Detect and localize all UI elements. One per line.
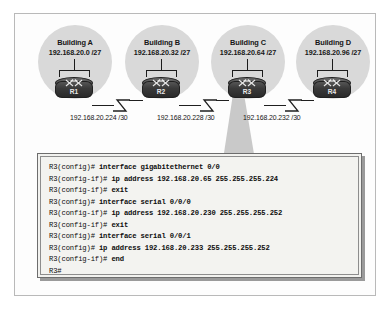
router-r2[interactable]: R2 [142, 77, 180, 98]
console-line: R3(config-if)# exit [49, 186, 128, 194]
console-line: R3(config-if)# ip address 192.168.20.230… [49, 209, 282, 217]
router-r4-label: R4 [313, 88, 351, 95]
console-line: R3(config)# interface gigabitethernet 0/… [49, 163, 220, 171]
console-line: R3(config-if)# ip address 192.168.20.65 … [49, 175, 278, 183]
lan-stub-leg-c-right [262, 70, 263, 77]
console-line: R3(config)# ip address 192.168.20.233 25… [49, 244, 270, 252]
console-command: interface gigabitethernet 0/0 [95, 163, 220, 171]
lan-stub-vertical-d [332, 59, 333, 70]
console-prompt: R3(config)# [49, 232, 95, 240]
router-arrows-icon [237, 78, 257, 88]
console-line: R3(config-if)# exit [49, 221, 128, 229]
console-prompt: R3(config-if)# [49, 175, 107, 183]
serial-zigzag-r2-r3 [200, 99, 218, 112]
console-command: end [107, 255, 124, 263]
console-prompt: R3(config)# [49, 163, 95, 171]
router-r2-label: R2 [142, 88, 180, 95]
router-arrows-icon [151, 78, 171, 88]
serial-link-r3-r4-left [264, 105, 286, 106]
console-command: ip address 192.168.20.65 255.255.255.224 [107, 175, 278, 183]
diagram-frame: Building A 192.168.20.0 /27 Building B 1… [14, 13, 376, 296]
console-line: R3(config)# interface serial 0/0/1 [49, 232, 191, 240]
console-command: interface serial 0/0/1 [95, 232, 191, 240]
lan-stub-bar-b [146, 70, 177, 71]
building-d-name: Building D [281, 38, 385, 48]
lan-stub-bar-a [59, 70, 90, 71]
router-arrows-icon [322, 78, 342, 88]
lan-stub-vertical-b [161, 59, 162, 70]
router-arrows-icon [64, 78, 84, 88]
lan-stub-leg-b-right [176, 70, 177, 77]
lan-stub-leg-c-left [232, 70, 233, 77]
building-d-label: Building D 192.168.20.96 /27 [281, 38, 385, 57]
wan-label-r2-r3: 192.168.20.228 /30 [157, 114, 215, 121]
console-prompt: R3(config)# [49, 198, 95, 206]
lan-stub-leg-a-right [89, 70, 90, 77]
lan-stub-vertical-a [74, 59, 75, 70]
router-r1-label: R1 [55, 88, 93, 95]
console-prompt: R3# [49, 267, 62, 275]
router-r4[interactable]: R4 [313, 77, 351, 98]
wan-label-r3-r4: 192.168.20.232 /30 [243, 114, 301, 121]
console-prompt: R3(config)# [49, 244, 95, 252]
serial-link-r2-r3-left [179, 105, 201, 106]
serial-link-r1-r2-left [92, 105, 114, 106]
wan-label-r1-r2: 192.168.20.224 /30 [70, 114, 128, 121]
console-command: exit [107, 186, 128, 194]
serial-link-r1-r2-right [129, 100, 143, 101]
lan-stub-bar-d [317, 70, 348, 71]
console-command: interface serial 0/0/0 [95, 198, 191, 206]
building-d-network: 192.168.20.96 /27 [281, 48, 385, 58]
console-command: ip address 192.168.20.233 255.255.255.25… [95, 244, 270, 252]
console-prompt: R3(config-if)# [49, 221, 107, 229]
console-prompt: R3(config-if)# [49, 186, 107, 194]
console-command: exit [107, 221, 128, 229]
console-prompt: R3(config-if)# [49, 255, 107, 263]
serial-link-r3-r4-right [301, 100, 314, 101]
lan-stub-leg-d-right [347, 70, 348, 77]
console-output-box: R3(config)# interface gigabitethernet 0/… [37, 153, 362, 278]
lan-stub-bar-c [232, 70, 263, 71]
console-prompt: R3(config-if)# [49, 209, 107, 217]
serial-link-r2-r3-right [216, 100, 229, 101]
router-r3-label: R3 [228, 88, 266, 95]
console-line: R3(config-if)# end [49, 255, 124, 263]
lan-stub-leg-d-left [317, 70, 318, 77]
serial-zigzag-r1-r2 [113, 99, 131, 112]
lan-stub-leg-b-left [146, 70, 147, 77]
serial-zigzag-r3-r4 [285, 99, 303, 112]
diagram-page: Building A 192.168.20.0 /27 Building B 1… [0, 0, 391, 313]
console-command: ip address 192.168.20.230 255.255.255.25… [107, 209, 282, 217]
console-inner-border: R3(config)# interface gigabitethernet 0/… [40, 156, 359, 275]
lan-stub-leg-a-left [59, 70, 60, 77]
console-line: R3# [49, 267, 62, 275]
router-r3[interactable]: R3 [228, 77, 266, 98]
console-line: R3(config)# interface serial 0/0/0 [49, 198, 191, 206]
lan-stub-vertical-c [247, 59, 248, 70]
router-r1[interactable]: R1 [55, 77, 93, 98]
